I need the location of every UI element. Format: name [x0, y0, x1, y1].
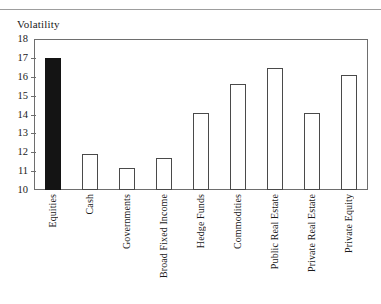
y-axis-tick-label: 16 — [10, 72, 28, 82]
y-axis-tick-label: 11 — [10, 166, 28, 176]
page-top-rule — [0, 9, 381, 10]
bar-private-equity — [341, 75, 357, 190]
page-header-smudge — [0, 0, 381, 8]
bar-hedge-funds — [193, 113, 209, 190]
chart-title: Volatility — [17, 18, 60, 30]
y-axis-tick-label: 12 — [10, 147, 28, 157]
x-axis-category-labels: EquitiesCashGovernmentsBroad Fixed Incom… — [34, 194, 368, 304]
y-axis-tick-label: 18 — [10, 34, 28, 44]
x-axis-label-commodities: Commodities — [233, 194, 243, 249]
x-axis-label-governments: Governments — [122, 194, 132, 249]
x-axis-label-private-equity: Private Equity — [344, 194, 354, 253]
bar-public-real-estate — [267, 68, 283, 190]
y-axis-tick-label: 17 — [10, 53, 28, 63]
bar-cash — [82, 154, 98, 190]
bar-equities — [45, 58, 61, 190]
x-axis-label-broad-fixed-income: Broad Fixed Income — [159, 194, 169, 278]
bar-broad-fixed-income — [156, 158, 172, 190]
y-axis-tick-label: 15 — [10, 91, 28, 101]
bar-private-real-estate — [304, 113, 320, 190]
x-axis-label-private-real-estate: Private Real Estate — [307, 194, 317, 272]
bar-governments — [119, 168, 135, 190]
bar-commodities — [230, 84, 246, 190]
x-axis-label-equities: Equities — [48, 194, 58, 228]
bar-series — [34, 39, 368, 190]
x-axis-label-cash: Cash — [85, 194, 95, 214]
x-axis-label-hedge-funds: Hedge Funds — [196, 194, 206, 248]
y-axis-tick-label: 14 — [10, 110, 28, 120]
y-axis-tick-label: 10 — [10, 185, 28, 195]
y-axis-tick-label: 13 — [10, 128, 28, 138]
x-axis-label-public-real-estate: Public Real Estate — [270, 194, 280, 269]
